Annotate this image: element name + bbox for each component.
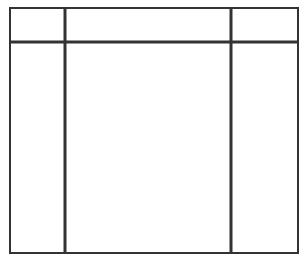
grid-svg — [0, 0, 307, 261]
grid-diagram — [0, 0, 307, 261]
column-dividers — [65, 8, 231, 253]
outer-frame — [10, 8, 298, 253]
